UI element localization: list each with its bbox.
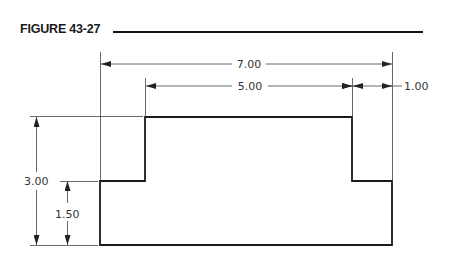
dim-text-7: 7.00 (237, 58, 262, 71)
extension-lines (30, 52, 393, 246)
dim-overall-width: 7.00 (101, 58, 392, 71)
dim-right-step: 1.00 (342, 80, 429, 93)
dim-overall-height: 3.00 (24, 117, 49, 245)
dim-text-1-5: 1.50 (55, 208, 80, 221)
technical-drawing: 7.00 5.00 1.00 3.00 1.50 (0, 0, 449, 269)
dim-text-3: 3.00 (24, 175, 49, 188)
dim-text-1: 1.00 (404, 80, 429, 93)
dim-top-width: 5.00 (146, 80, 352, 93)
dim-text-5: 5.00 (238, 80, 263, 93)
part-outline (100, 117, 392, 245)
dim-step-height: 1.50 (55, 181, 80, 245)
